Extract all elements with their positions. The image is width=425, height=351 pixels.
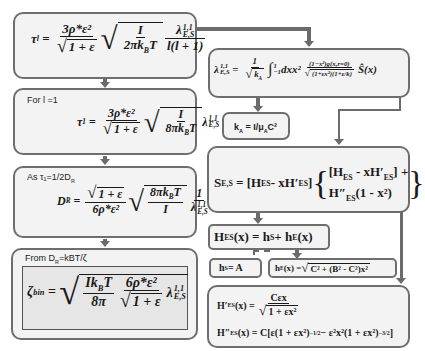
- connector-shat-to-s-h: [338, 109, 401, 111]
- connector-s-to-deriv: [400, 205, 403, 279]
- connector-shat-to-s-v2: [338, 109, 340, 139]
- from-dr-label: From DR=kBT/ζ: [25, 253, 87, 265]
- arrowhead-box3: [100, 159, 110, 165]
- tau-l-box: τl = 3ρ*ε² √1 + ε √I2πkBT λ1,1E,S l(l + …: [13, 12, 197, 79]
- lambda-es-box: λ1,1E,S = 1√kA ∫1−1 dxx² (1−x²)g(x,r=0)√…: [208, 48, 410, 98]
- arrowhead-to-lambda: [304, 41, 314, 47]
- ka-box: kA = I/μAC²: [222, 112, 290, 140]
- hs-box: hS = A: [209, 258, 262, 278]
- as-tau-label: As τ₁=1/2DR: [27, 172, 75, 184]
- lambda-es-equation: λ1,1E,S = 1√kA ∫1−1 dxx² (1−x²)g(x,r=0)√…: [214, 57, 377, 80]
- for-l-1-label: For l =1: [27, 95, 58, 105]
- s-es-equation: SE,S = [HES - xH′ES] { [HES - xH′ES] + H…: [214, 162, 425, 205]
- h-double-prime-equation: H″ES(x) = C[ε(1 + εx²)−1/2 − ε²x²(1 + εx…: [217, 327, 393, 338]
- he-box: hE(x) = √C² + (B² - C²)x²: [268, 258, 397, 278]
- dr-box: As τ₁=1/2DR DR = √1 + ε 6ρ*ε² √8πkBTI 1 …: [13, 166, 197, 238]
- h-prime-equation: H′ES(x) = Cεx√1 + εx²: [217, 292, 302, 318]
- arrowhead-s: [334, 139, 344, 145]
- dr-equation: DR = √1 + ε 6ρ*ε² √8πkBTI 1 λ1,1E,S: [57, 185, 212, 217]
- he-equation: hE(x) = √C² + (B² - C²)x²: [275, 262, 370, 275]
- h-es-equation: HES(x) = hS + hE(x): [214, 229, 313, 245]
- h-derivatives-box: H′ES(x) = Cεx√1 + εx² H″ES(x) = C[ε(1 + …: [207, 285, 410, 348]
- connector-hs-dashed-h: [253, 250, 270, 252]
- tau-l-equation: τl = 3ρ*ε² √1 + ε √I2πkBT λ1,1E,S l(l + …: [31, 22, 207, 56]
- h-es-box: HES(x) = hS + hE(x): [208, 224, 330, 250]
- s-es-box: SE,S = [HES - xH′ES] { [HES - xH′ES] + H…: [207, 146, 410, 213]
- connector-tau-to-lambda-v: [307, 27, 311, 42]
- arrowhead-deriv: [396, 278, 406, 284]
- zeta-bin-box: From DR=kBT/ζ ζbin = √ IkBT8π 6ρ*ε²√1 + …: [11, 248, 198, 340]
- zeta-bin-equation: ζbin = √ IkBT8π 6ρ*ε²√1 + ε λ1,1E,S: [27, 274, 188, 311]
- hs-equation: hS = A: [219, 262, 243, 273]
- ka-definition: kA = I/μAC²: [234, 122, 277, 134]
- connector-hs-dashed-v: [253, 250, 255, 255]
- arrowhead-box4: [100, 241, 110, 247]
- tau-1-box: For l =1 τ1 = 3ρ*ε² √1 + ε √I8πkBT λ1,1E…: [13, 88, 197, 155]
- tau-1-equation: τ1 = 3ρ*ε² √1 + ε √I8πkBT λ1,1E,S: [77, 107, 219, 138]
